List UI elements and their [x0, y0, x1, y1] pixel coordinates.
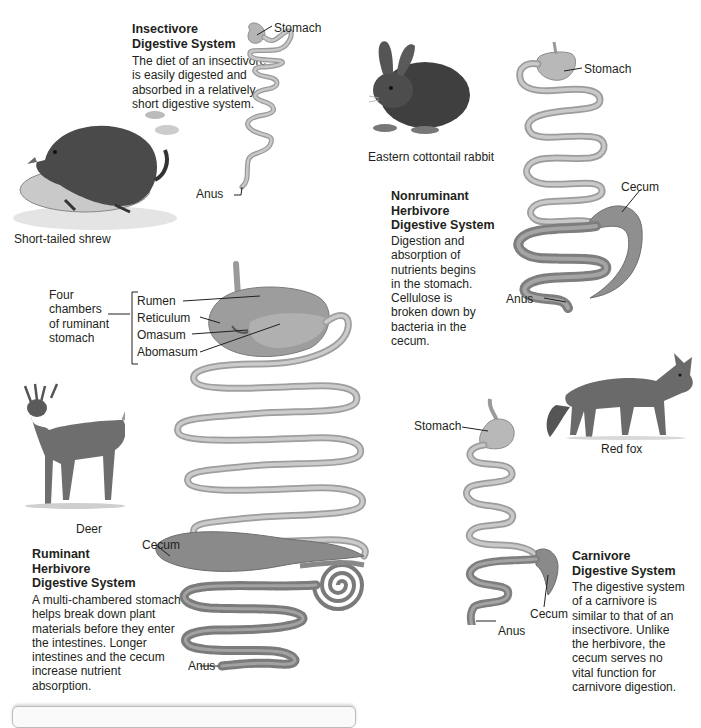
text-line: bacteria in the — [391, 320, 476, 334]
carnivore-title-line2: Digestive System — [572, 564, 676, 579]
ruminant-title-line3: Digestive System — [32, 576, 136, 591]
text-line: insectivore. Unlike — [572, 623, 685, 637]
text-line: chambers — [49, 302, 109, 316]
text-line: absorption of — [391, 248, 476, 262]
nonruminant-cecum-label: Cecum — [621, 180, 659, 194]
text-line: the herbivore, the — [572, 637, 685, 651]
fox-caption: Red fox — [601, 442, 642, 456]
ruminant-title: Ruminant Herbivore Digestive System — [32, 547, 136, 591]
carnivore-cecum-label: Cecum — [530, 607, 568, 621]
text-line: Cellulose is — [391, 291, 476, 305]
nonruminant-description: Digestion and absorption of nutrients be… — [391, 234, 476, 348]
rabbit-illustration — [365, 30, 475, 135]
carnivore-title-line1: Carnivore — [572, 549, 676, 564]
ruminant-digestive-tract — [150, 260, 400, 710]
cropped-top-text — [0, 0, 701, 2]
carnivore-anus-label: Anus — [498, 624, 525, 638]
cropped-bottom-panel — [12, 706, 356, 728]
deer-illustration — [5, 380, 125, 520]
chambers-caption: Four chambers of ruminant stomach — [49, 288, 109, 345]
text-line: of a carnivore is — [572, 594, 685, 608]
carnivore-stomach-label: Stomach — [414, 419, 461, 433]
text-line: Digestion and — [391, 234, 476, 248]
carnivore-title: Carnivore Digestive System — [572, 549, 676, 578]
ruminant-title-line2: Herbivore — [32, 562, 136, 577]
insectivore-anus-label: Anus — [196, 187, 223, 201]
text-line: of ruminant — [49, 317, 109, 331]
fox-illustration — [536, 345, 701, 440]
shrew-illustration — [5, 100, 185, 240]
nonruminant-title-line1: Nonruminant — [391, 189, 495, 204]
text-line: The digestive system — [572, 580, 685, 594]
shrew-caption: Short-tailed shrew — [14, 232, 111, 246]
nonruminant-title-line3: Digestive System — [391, 218, 495, 233]
text-line: vital function for — [572, 666, 685, 680]
text-line: broken down by — [391, 305, 476, 319]
nonruminant-title: Nonruminant Herbivore Digestive System — [391, 189, 495, 233]
rabbit-caption: Eastern cottontail rabbit — [368, 150, 494, 164]
text-line: cecum serves no — [572, 651, 685, 665]
text-line: carnivore digestion. — [572, 680, 685, 694]
text-line: in the stomach. — [391, 277, 476, 291]
text-line: cecum. — [391, 334, 476, 348]
insectivore-stomach-label: Stomach — [274, 21, 321, 35]
text-line: Four — [49, 288, 109, 302]
text-line: nutrients begins — [391, 263, 476, 277]
ruminant-title-line1: Ruminant — [32, 547, 136, 562]
nonruminant-title-line2: Herbivore — [391, 204, 495, 219]
insectivore-digestive-tract — [220, 15, 360, 205]
deer-caption: Deer — [76, 522, 102, 536]
nonruminant-anus-label: Anus — [506, 292, 533, 306]
text-line: similar to that of an — [572, 609, 685, 623]
ruminant-anus-label: Anus — [188, 659, 215, 673]
ruminant-cecum-label: Cecum — [142, 538, 180, 552]
carnivore-description: The digestive system of a carnivore is s… — [572, 580, 685, 694]
text-line: stomach — [49, 331, 109, 345]
nonruminant-stomach-label: Stomach — [584, 62, 631, 76]
